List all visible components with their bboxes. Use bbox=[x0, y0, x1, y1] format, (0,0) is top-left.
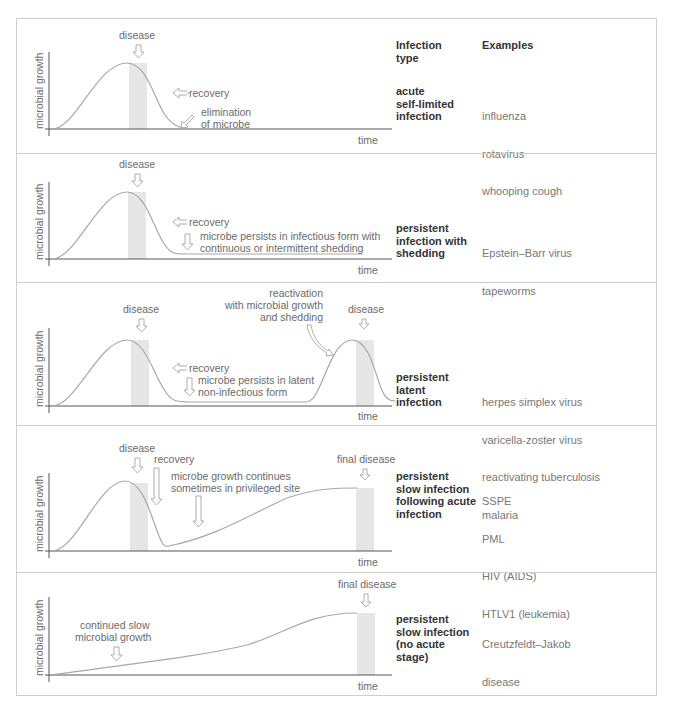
arrow-left-icon bbox=[173, 217, 187, 227]
label-persist-1: microbe persists in infectious form with bbox=[200, 230, 380, 242]
arrow-down-icon bbox=[151, 468, 162, 505]
label-recovery: recovery bbox=[189, 216, 230, 228]
label-persist-2: continuous or intermittent shedding bbox=[200, 242, 364, 254]
arrow-down-icon bbox=[193, 496, 204, 527]
label-elimination-2: of microbe bbox=[201, 118, 250, 130]
arrow-down-icon bbox=[360, 469, 370, 480]
x-axis-label: time bbox=[358, 556, 378, 568]
panel-acute: Infection type Examples microbial growth… bbox=[17, 19, 656, 153]
label-recovery: recovery bbox=[189, 362, 230, 374]
y-axis-label: microbial growth bbox=[33, 52, 45, 129]
example-item: influenza bbox=[482, 110, 562, 123]
label-continues-1: microbe growth continues bbox=[171, 470, 291, 482]
label-react-3: and shedding bbox=[260, 311, 323, 323]
arrow-down-icon bbox=[136, 319, 147, 332]
x-axis-label: time bbox=[358, 134, 378, 146]
x-axis-label: time bbox=[358, 680, 378, 692]
disease-shade bbox=[131, 340, 149, 406]
arrow-down-icon bbox=[359, 319, 369, 329]
label-react-2: with microbial growth bbox=[224, 299, 323, 311]
arrow-down-icon bbox=[361, 594, 371, 607]
label-react-1: reactivation bbox=[269, 287, 323, 299]
arrow-down-icon bbox=[182, 234, 193, 250]
panel-slow-following-acute: microbial growth time disease recovery m… bbox=[17, 425, 656, 572]
example-item: SSPE bbox=[482, 495, 570, 508]
arrow-curved-icon bbox=[307, 325, 333, 356]
x-axis-label: time bbox=[358, 264, 378, 276]
disease-shade bbox=[129, 63, 147, 129]
label-latent-2: non-infectious form bbox=[198, 386, 288, 398]
label-final-disease: final disease bbox=[337, 453, 396, 465]
example-item: Creutzfeldt–Jakob bbox=[482, 638, 571, 651]
label-final-disease: final disease bbox=[338, 578, 397, 590]
arrow-down-icon bbox=[111, 647, 122, 661]
infection-type-label: persistent slow infection (no acute stag… bbox=[396, 613, 469, 663]
figure-frame: Infection type Examples microbial growth… bbox=[16, 18, 657, 696]
infection-type-label: persistent slow infection following acut… bbox=[396, 470, 476, 520]
label-recovery: recovery bbox=[189, 87, 230, 99]
final-disease-shade bbox=[356, 488, 374, 551]
arrow-left-icon bbox=[173, 363, 187, 373]
label-disease: disease bbox=[119, 158, 155, 170]
example-item: herpes simplex virus bbox=[482, 396, 600, 409]
growth-curve bbox=[53, 63, 193, 129]
y-axis-label: microbial growth bbox=[33, 183, 45, 260]
x-axis-label: time bbox=[358, 410, 378, 422]
label-disease: disease bbox=[119, 29, 155, 41]
y-axis-label: microbial growth bbox=[33, 330, 45, 407]
y-axis-label: microbial growth bbox=[33, 475, 45, 552]
label-slow-1: continued slow bbox=[80, 619, 150, 631]
label-continues-2: sometimes in privileged site bbox=[171, 482, 300, 494]
y-axis-label: microbial growth bbox=[33, 599, 45, 676]
examples-list: Creutzfeldt–Jakob disease bbox=[482, 613, 571, 709]
disease-shade-2 bbox=[356, 340, 374, 406]
example-item: PML bbox=[482, 533, 570, 546]
infection-type-label: acute self-limited infection bbox=[396, 85, 454, 123]
arrow-down-icon bbox=[184, 378, 195, 396]
infection-type-label: persistent infection with shedding bbox=[396, 222, 467, 260]
disease-shade bbox=[130, 483, 148, 551]
arrow-left-icon bbox=[173, 88, 187, 98]
example-item: disease bbox=[482, 676, 571, 689]
label-disease-2: disease bbox=[348, 303, 384, 315]
label-disease: disease bbox=[123, 303, 159, 315]
label-elimination-1: elimination bbox=[201, 106, 251, 118]
arrow-down-icon bbox=[133, 45, 144, 58]
panel-persistent-latent: microbial growth time disease recovery m… bbox=[17, 282, 656, 425]
arrow-diagonal-icon bbox=[181, 115, 194, 128]
label-latent-1: microbe persists in latent bbox=[198, 374, 314, 386]
panel-slow-no-acute: microbial growth time continued slow mic… bbox=[17, 572, 656, 697]
label-recovery: recovery bbox=[154, 453, 195, 465]
arrow-down-icon bbox=[132, 458, 143, 473]
arrow-down-icon bbox=[132, 174, 143, 187]
infection-type-label: persistent latent infection bbox=[396, 371, 449, 409]
example-item: Epstein–Barr virus bbox=[482, 247, 572, 260]
label-disease: disease bbox=[119, 442, 155, 454]
final-disease-shade bbox=[357, 613, 375, 675]
label-slow-2: microbial growth bbox=[75, 631, 152, 643]
panel-persistent-shedding: microbial growth time disease recovery m… bbox=[17, 153, 656, 282]
